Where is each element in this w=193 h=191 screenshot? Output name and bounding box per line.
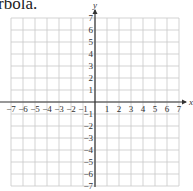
y-tick-label: −1 — [83, 109, 93, 119]
x-tick-label: −6 — [18, 104, 28, 114]
coordinate-grid: xy−7−6−5−4−3−2−112345677654321−1−2−3−4−5… — [0, 0, 193, 191]
y-tick-label: 1 — [89, 85, 94, 95]
y-tick-label: −7 — [83, 181, 93, 191]
y-axis-label: y — [92, 0, 97, 10]
y-tick-label: 2 — [89, 73, 94, 83]
x-tick-label: −2 — [66, 104, 76, 114]
y-tick-label: 7 — [89, 13, 94, 23]
x-tick-label: 1 — [105, 104, 110, 114]
y-tick-label: −4 — [83, 145, 93, 155]
x-tick-label: 4 — [141, 104, 146, 114]
x-tick-label: 7 — [177, 104, 182, 114]
y-tick-label: −5 — [83, 157, 93, 167]
x-axis-arrow-icon — [182, 100, 187, 105]
x-tick-label: −4 — [42, 104, 52, 114]
x-tick-label: 2 — [117, 104, 122, 114]
x-tick-label: −7 — [6, 104, 16, 114]
x-tick-label: 5 — [153, 104, 158, 114]
y-tick-label: −6 — [83, 169, 93, 179]
x-axis-label: x — [188, 97, 193, 107]
x-tick-label: 3 — [129, 104, 134, 114]
y-tick-label: −3 — [83, 133, 93, 143]
y-tick-label: −2 — [83, 121, 93, 131]
y-tick-label: 3 — [89, 61, 94, 71]
x-tick-label: −5 — [30, 104, 40, 114]
y-tick-label: 5 — [89, 37, 94, 47]
y-tick-label: 6 — [89, 25, 94, 35]
x-tick-label: 6 — [165, 104, 170, 114]
y-tick-label: 4 — [89, 49, 94, 59]
x-tick-label: −3 — [54, 104, 64, 114]
